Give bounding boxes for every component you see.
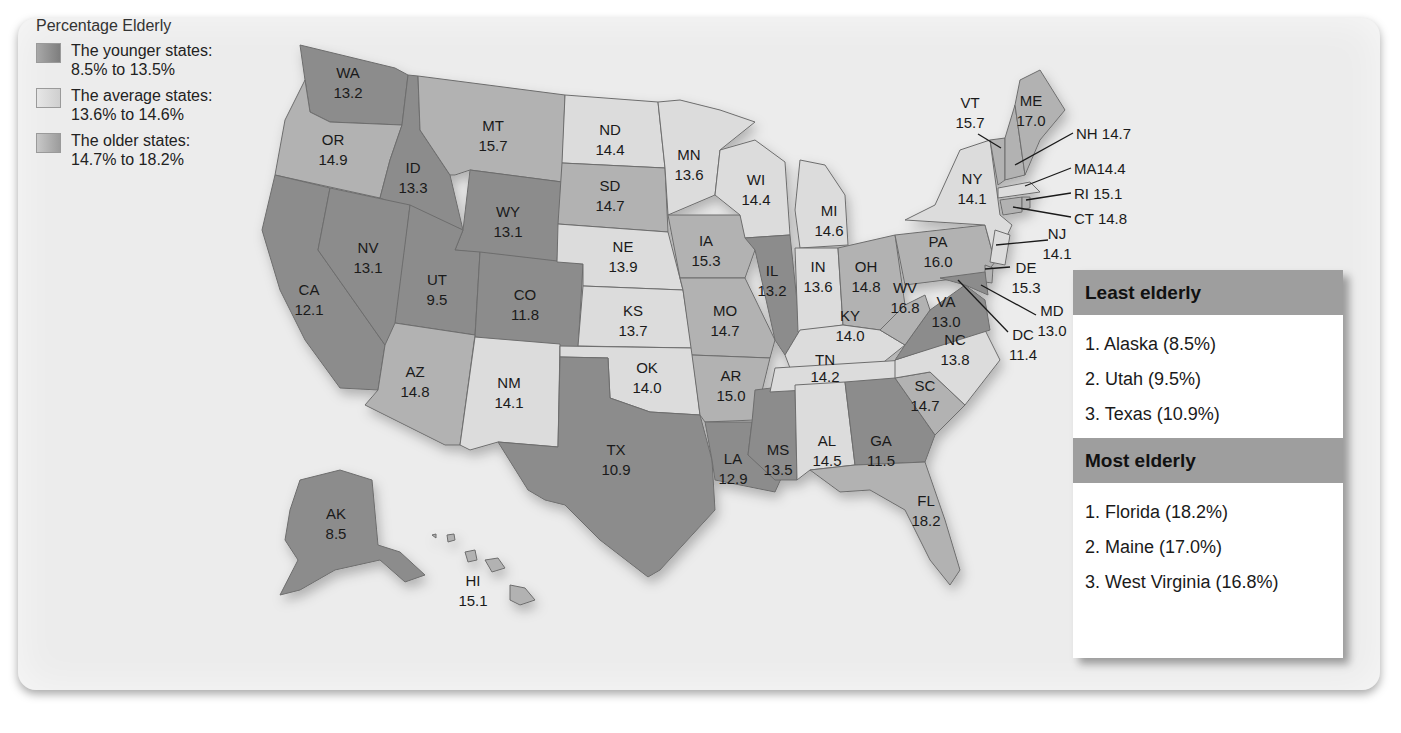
legend-younger-label: The younger states: <box>71 41 212 60</box>
svg-text:15.3: 15.3 <box>1011 279 1040 296</box>
svg-text:ND: ND <box>599 121 621 138</box>
svg-text:14.8: 14.8 <box>851 278 880 295</box>
svg-text:ID: ID <box>406 159 421 176</box>
svg-text:MO: MO <box>713 302 737 319</box>
svg-text:MN: MN <box>677 146 700 163</box>
svg-text:14.9: 14.9 <box>318 151 347 168</box>
state-MA[interactable] <box>998 182 1040 198</box>
svg-text:WI: WI <box>747 171 765 188</box>
svg-text:11.5: 11.5 <box>867 452 895 469</box>
least-elderly-list: 1. Alaska (8.5%) 2. Utah (9.5%) 3. Texas… <box>1073 315 1343 438</box>
legend-older-label: The older states: <box>71 131 190 150</box>
most-elderly-item: 3. West Virginia (16.8%) <box>1085 565 1343 600</box>
svg-text:15.0: 15.0 <box>716 387 745 404</box>
svg-text:15.3: 15.3 <box>691 252 720 269</box>
svg-text:VA: VA <box>937 293 956 310</box>
least-elderly-item: 1. Alaska (8.5%) <box>1085 327 1343 362</box>
legend-average-label: The average states: <box>71 86 212 105</box>
svg-text:NY: NY <box>962 170 983 187</box>
legend-average-range: 13.6% to 14.6% <box>71 105 212 124</box>
svg-text:NE: NE <box>613 238 634 255</box>
legend-item-older: The older states: 14.7% to 18.2% <box>36 131 212 169</box>
svg-text:MS: MS <box>767 441 790 458</box>
svg-text:PA: PA <box>929 233 948 250</box>
svg-text:RI 15.1: RI 15.1 <box>1074 185 1122 202</box>
svg-text:FL: FL <box>917 492 935 509</box>
svg-text:13.6: 13.6 <box>674 166 703 183</box>
svg-text:HI: HI <box>466 572 481 589</box>
svg-text:14.8: 14.8 <box>400 383 429 400</box>
svg-text:MT: MT <box>482 117 504 134</box>
svg-text:14.0: 14.0 <box>835 327 864 344</box>
svg-text:AZ: AZ <box>405 363 424 380</box>
svg-text:SC: SC <box>915 377 936 394</box>
svg-text:11.4: 11.4 <box>1009 346 1037 363</box>
svg-text:13.6: 13.6 <box>803 278 832 295</box>
swatch-younger <box>36 43 61 63</box>
svg-text:13.7: 13.7 <box>618 322 647 339</box>
svg-text:IA: IA <box>699 232 713 249</box>
svg-text:OH: OH <box>855 258 878 275</box>
svg-text:14.1: 14.1 <box>494 394 523 411</box>
svg-text:14.1: 14.1 <box>957 190 986 207</box>
most-elderly-item: 1. Florida (18.2%) <box>1085 495 1343 530</box>
most-elderly-list: 1. Florida (18.2%) 2. Maine (17.0%) 3. W… <box>1073 483 1343 606</box>
svg-text:14.4: 14.4 <box>595 141 624 158</box>
svg-text:AL: AL <box>818 432 836 449</box>
svg-text:12.9: 12.9 <box>718 470 747 487</box>
svg-text:13.1: 13.1 <box>353 259 382 276</box>
svg-text:13.8: 13.8 <box>940 351 969 368</box>
svg-text:13.0: 13.0 <box>1037 322 1066 339</box>
svg-text:11.8: 11.8 <box>511 306 539 323</box>
svg-text:ME: ME <box>1020 92 1043 109</box>
svg-text:UT: UT <box>427 271 447 288</box>
svg-text:15.7: 15.7 <box>955 114 984 131</box>
svg-text:8.5: 8.5 <box>326 525 347 542</box>
state-AK[interactable] <box>280 470 425 595</box>
svg-text:17.0: 17.0 <box>1016 112 1045 129</box>
svg-text:CA: CA <box>299 281 320 298</box>
least-elderly-header: Least elderly <box>1073 270 1343 315</box>
swatch-older <box>36 133 61 153</box>
svg-text:KS: KS <box>623 302 643 319</box>
svg-text:AR: AR <box>721 367 742 384</box>
svg-text:NJ: NJ <box>1048 225 1066 242</box>
svg-text:IN: IN <box>811 258 826 275</box>
svg-text:DC: DC <box>1012 326 1034 343</box>
least-elderly-item: 2. Utah (9.5%) <box>1085 362 1343 397</box>
svg-text:WA: WA <box>336 64 360 81</box>
svg-text:TX: TX <box>606 441 625 458</box>
svg-text:13.1: 13.1 <box>493 223 522 240</box>
svg-text:12.1: 12.1 <box>294 301 323 318</box>
svg-text:TN: TN <box>815 351 835 368</box>
svg-text:CO: CO <box>514 286 537 303</box>
svg-text:IL: IL <box>766 262 779 279</box>
svg-text:14.6: 14.6 <box>814 222 843 239</box>
svg-text:MD: MD <box>1040 302 1063 319</box>
svg-text:MA14.4: MA14.4 <box>1074 160 1126 177</box>
svg-text:SD: SD <box>600 177 621 194</box>
svg-text:14.2: 14.2 <box>810 368 839 385</box>
svg-text:NM: NM <box>497 374 520 391</box>
svg-text:MI: MI <box>821 202 838 219</box>
svg-text:16.0: 16.0 <box>923 253 952 270</box>
most-elderly-header: Most elderly <box>1073 438 1343 483</box>
svg-text:NV: NV <box>358 239 379 256</box>
rankings-box: Least elderly 1. Alaska (8.5%) 2. Utah (… <box>1073 270 1343 658</box>
svg-text:14.5: 14.5 <box>812 452 841 469</box>
legend: Percentage Elderly The younger states: 8… <box>36 17 212 176</box>
svg-text:GA: GA <box>870 432 892 449</box>
svg-text:LA: LA <box>724 450 742 467</box>
svg-text:14.7: 14.7 <box>710 322 739 339</box>
svg-text:NC: NC <box>944 331 966 348</box>
svg-text:WV: WV <box>893 279 917 296</box>
svg-text:13.9: 13.9 <box>608 258 637 275</box>
state-CT[interactable] <box>1000 197 1022 215</box>
svg-text:9.5: 9.5 <box>427 291 448 308</box>
svg-text:14.1: 14.1 <box>1042 245 1071 262</box>
svg-text:CT 14.8: CT 14.8 <box>1074 210 1127 227</box>
least-elderly-item: 3. Texas (10.9%) <box>1085 397 1343 432</box>
svg-text:VT: VT <box>960 94 979 111</box>
legend-item-average: The average states: 13.6% to 14.6% <box>36 86 212 124</box>
legend-item-younger: The younger states: 8.5% to 13.5% <box>36 41 212 79</box>
